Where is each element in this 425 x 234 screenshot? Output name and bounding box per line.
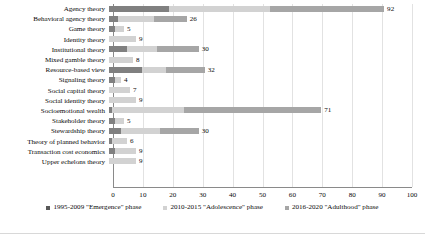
bar-segment (109, 36, 136, 42)
stacked-bar[interactable] (109, 107, 321, 113)
stacked-bar[interactable] (109, 46, 199, 52)
stacked-bar[interactable] (109, 138, 127, 144)
bar-segment (142, 67, 166, 73)
bar-track: 5 (109, 116, 425, 126)
bar-segment (112, 107, 184, 113)
x-tick-label: 100 (407, 191, 418, 200)
legend-item[interactable]: 1995-2009 "Emergence" phase (46, 203, 141, 212)
x-axis-tick-labels: 0102030405060708090100 (0, 191, 425, 203)
bar-value-label: 4 (124, 76, 128, 84)
stacked-bar[interactable] (109, 67, 205, 73)
stacked-bar[interactable] (109, 26, 124, 32)
bar-segment (109, 128, 121, 134)
chart-row: Signaling theory4 (0, 75, 425, 85)
chart-row: Theory of planned behavior6 (0, 136, 425, 146)
legend-swatch-icon (46, 206, 50, 210)
stacked-bar[interactable] (109, 118, 124, 124)
category-label: Resource-based view (0, 66, 109, 74)
bar-track: 26 (109, 14, 425, 24)
stacked-bar[interactable] (109, 148, 136, 154)
bar-segment (166, 67, 205, 73)
chart-row: Stakeholder theory5 (0, 116, 425, 126)
x-tick-label: 90 (379, 191, 386, 200)
x-tick-label: 50 (259, 191, 266, 200)
bar-segment (109, 158, 136, 164)
bar-track: 4 (109, 75, 425, 85)
bar-track: 30 (109, 126, 425, 136)
category-label: Game theory (0, 25, 109, 33)
stacked-bar[interactable] (109, 36, 136, 42)
bar-segment (115, 26, 124, 32)
chart-row: Institutional theory30 (0, 45, 425, 55)
bar-segment (115, 77, 121, 83)
bar-segment (109, 16, 118, 22)
bar-track: 71 (109, 106, 425, 116)
chart-row: Social identity theory9 (0, 96, 425, 106)
plot-area: Agency theory92Behavioral agency theory2… (0, 4, 425, 190)
x-tick-label: 70 (319, 191, 326, 200)
bar-track: 7 (109, 86, 425, 96)
bar-value-label: 30 (202, 45, 209, 53)
chart-row: Socioemotional wealth71 (0, 106, 425, 116)
legend-item[interactable]: 2010-2015 "Adolescence" phase (163, 203, 262, 212)
bar-segment (118, 16, 154, 22)
category-label: Institutional theory (0, 46, 109, 54)
chart-row: Game theory5 (0, 24, 425, 34)
stacked-bar[interactable] (109, 16, 187, 22)
bar-segment (127, 46, 157, 52)
stacked-bar[interactable] (109, 6, 384, 12)
bar-track: 30 (109, 45, 425, 55)
bar-segment (112, 138, 127, 144)
legend-label: 2016-2020 "Adulthood" phase (292, 203, 379, 212)
chart-row: Mixed gamble theory8 (0, 55, 425, 65)
stacked-bar[interactable] (109, 87, 130, 93)
bar-value-label: 5 (127, 117, 131, 125)
chart-row: Stewardship theory30 (0, 126, 425, 136)
x-tick-label: 10 (139, 191, 146, 200)
bar-segment (154, 16, 187, 22)
category-label: Agency theory (0, 5, 109, 13)
x-tick-label: 20 (169, 191, 176, 200)
x-tick-label: 80 (349, 191, 356, 200)
bar-segment (270, 6, 384, 12)
bar-segment (109, 97, 136, 103)
bar-value-label: 9 (139, 147, 143, 155)
chart-row: Transaction cost economics9 (0, 147, 425, 157)
bar-value-label: 30 (202, 127, 209, 135)
bar-segment (115, 118, 124, 124)
x-tick-label: 60 (289, 191, 296, 200)
chart-row: Social capital theory7 (0, 86, 425, 96)
bar-segment (109, 6, 169, 12)
stacked-bar-chart: Agency theory92Behavioral agency theory2… (0, 0, 425, 234)
stacked-bar[interactable] (109, 128, 199, 134)
bar-value-label: 5 (127, 25, 131, 33)
bar-segment (109, 67, 142, 73)
bar-value-label: 8 (136, 56, 140, 64)
category-label: Behavioral agency theory (0, 15, 109, 23)
stacked-bar[interactable] (109, 77, 121, 83)
bar-segment (109, 57, 133, 63)
chart-row: Identity theory9 (0, 35, 425, 45)
legend-swatch-icon (285, 206, 289, 210)
bar-value-label: 92 (387, 5, 394, 13)
chart-row: Resource-based view32 (0, 65, 425, 75)
category-label: Transaction cost economics (0, 148, 109, 156)
bar-segment (169, 6, 271, 12)
legend-item[interactable]: 2016-2020 "Adulthood" phase (285, 203, 379, 212)
bar-value-label: 9 (139, 35, 143, 43)
bar-track: 92 (109, 4, 425, 14)
category-label: Theory of planned behavior (0, 138, 109, 146)
stacked-bar[interactable] (109, 57, 133, 63)
bar-segment (121, 128, 160, 134)
chart-row: Upper echelons theory9 (0, 157, 425, 167)
bar-track: 8 (109, 55, 425, 65)
bar-value-label: 7 (133, 86, 137, 94)
legend-label: 2010-2015 "Adolescence" phase (170, 203, 262, 212)
stacked-bar[interactable] (109, 97, 136, 103)
x-tick-label: 40 (229, 191, 236, 200)
bar-segment (157, 46, 199, 52)
stacked-bar[interactable] (109, 158, 136, 164)
category-label: Socioemotional wealth (0, 107, 109, 115)
bar-rows: Agency theory92Behavioral agency theory2… (0, 4, 425, 187)
category-label: Mixed gamble theory (0, 56, 109, 64)
